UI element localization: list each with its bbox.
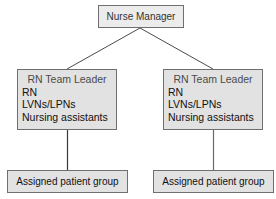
patient-group-node-right: Assigned patient group bbox=[153, 170, 274, 193]
team-member: RN bbox=[22, 86, 116, 99]
patient-group-label: Assigned patient group bbox=[162, 176, 264, 187]
team-member: Nursing assistants bbox=[22, 111, 116, 124]
team-member: LVNs/LPNs bbox=[168, 98, 262, 111]
connector-manager-to-right-team bbox=[140, 28, 213, 69]
team-leader-title: RN Team Leader bbox=[168, 73, 262, 86]
team-member: LVNs/LPNs bbox=[22, 98, 116, 111]
nurse-manager-label: Nurse Manager bbox=[107, 11, 176, 22]
patient-group-label: Assigned patient group bbox=[16, 176, 118, 187]
team-member: RN bbox=[168, 86, 262, 99]
nurse-manager-node: Nurse Manager bbox=[98, 5, 184, 28]
team-leader-node-left: RN Team Leader RN LVNs/LPNs Nursing assi… bbox=[17, 69, 117, 130]
connector-manager-to-left-team bbox=[67, 28, 140, 69]
patient-group-node-left: Assigned patient group bbox=[7, 170, 128, 193]
team-member: Nursing assistants bbox=[168, 111, 262, 124]
team-leader-node-right: RN Team Leader RN LVNs/LPNs Nursing assi… bbox=[163, 69, 263, 130]
team-leader-title: RN Team Leader bbox=[22, 73, 116, 86]
